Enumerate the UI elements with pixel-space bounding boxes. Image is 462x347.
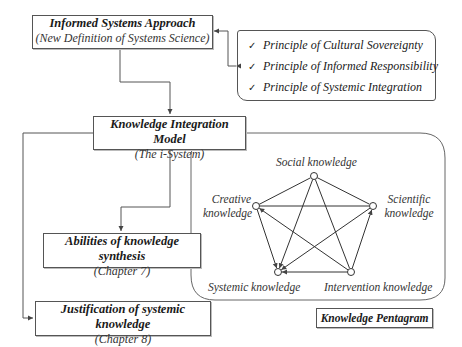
knowledge-integration-model-box: Knowledge Integration Model (The i-Syste… — [93, 116, 246, 150]
connector-top-to-model — [120, 48, 170, 114]
intervention-knowledge-label: Intervention knowledge — [324, 280, 432, 294]
knowledge-pentagram-label: Knowledge Pentagram — [316, 308, 433, 328]
systemic-knowledge-label: Systemic knowledge — [208, 280, 300, 294]
edge-scientific-systemic — [281, 208, 370, 270]
justification-box: Justification of systemic knowledge (Cha… — [35, 301, 211, 336]
check-icon: ✓ — [248, 40, 256, 51]
edge-social-scientific — [317, 178, 369, 205]
principle-item: ✓Principle of Cultural Sovereignty — [248, 35, 435, 56]
creative-knowledge-label: Creative knowledge — [203, 192, 251, 220]
knowledge-integration-model-title: Knowledge Integration Model — [94, 117, 245, 147]
check-icon: ✓ — [248, 61, 256, 72]
creative-label-line1: Creative — [203, 192, 251, 206]
scientific-knowledge-label: Scientific knowledge — [383, 192, 435, 220]
node-systemic — [275, 269, 282, 276]
check-icon: ✓ — [248, 82, 256, 93]
justification-subtitle: (Chapter 8) — [36, 332, 210, 347]
node-scientific — [370, 203, 377, 210]
informed-systems-approach-subtitle: (New Definition of Systems Science) — [33, 31, 212, 46]
node-social — [311, 173, 318, 180]
scientific-label-line2: knowledge — [383, 206, 435, 220]
principle-label: Principle of Systemic Integration — [263, 80, 422, 94]
justification-title: Justification of systemic knowledge — [36, 302, 210, 332]
node-intervention — [348, 269, 355, 276]
abilities-box: Abilities of knowledge synthesis (Chapte… — [43, 233, 201, 268]
informed-systems-approach-title: Informed Systems Approach — [33, 16, 212, 31]
edge-intervention-creative — [259, 208, 348, 270]
principle-item: ✓Principle of Systemic Integration — [248, 77, 435, 98]
principles-box: ✓Principle of Cultural Sovereignty ✓Prin… — [237, 30, 436, 101]
connector-top-to-principles — [214, 31, 236, 66]
creative-label-line2: knowledge — [203, 206, 251, 220]
node-creative — [253, 203, 260, 210]
principle-label: Principle of Cultural Sovereignty — [263, 38, 423, 52]
principle-item: ✓Principle of Informed Responsibility — [248, 56, 435, 77]
abilities-title: Abilities of knowledge synthesis — [44, 234, 200, 264]
connector-model-to-justification — [23, 133, 93, 318]
social-knowledge-label: Social knowledge — [276, 155, 357, 169]
principles-list: ✓Principle of Cultural Sovereignty ✓Prin… — [238, 31, 435, 98]
abilities-subtitle: (Chapter 7) — [44, 264, 200, 279]
edge-social-intervention — [315, 179, 349, 268]
edge-creative-social — [259, 178, 310, 205]
informed-systems-approach-box: Informed Systems Approach (New Definitio… — [32, 15, 213, 49]
knowledge-pentagram — [253, 173, 377, 276]
scientific-label-line1: Scientific — [383, 192, 435, 206]
edge-social-systemic — [279, 179, 312, 268]
knowledge-integration-model-subtitle: (The i-System) — [94, 147, 245, 162]
principle-label: Principle of Informed Responsibility — [263, 59, 438, 73]
